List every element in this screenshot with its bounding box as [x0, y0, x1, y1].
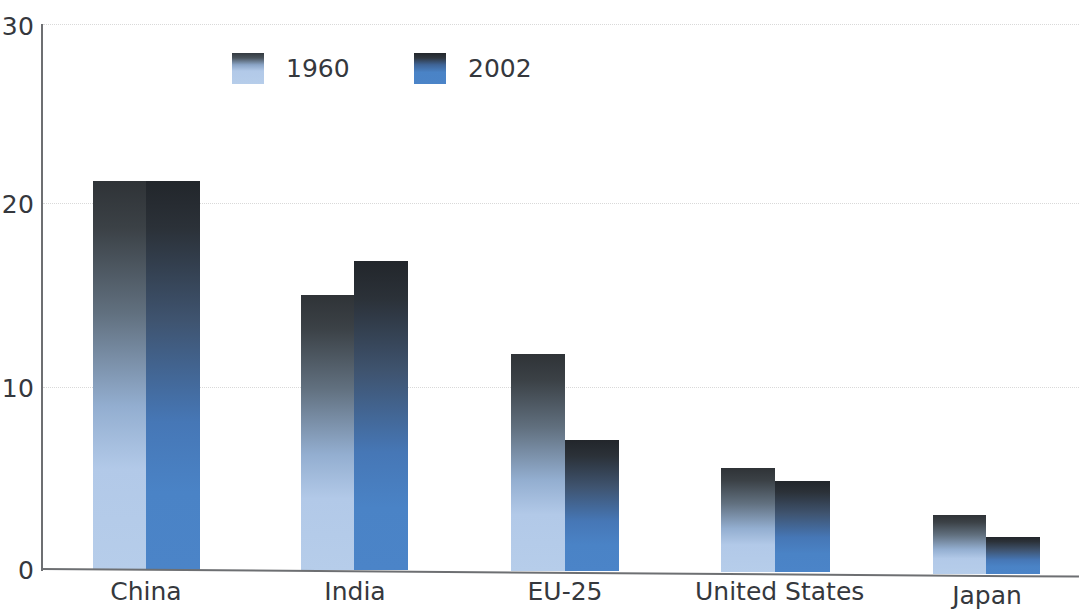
- bar-india-1960[interactable]: [301, 295, 354, 570]
- bar-japan-2002[interactable]: [986, 537, 1040, 574]
- bar-united-states-1960[interactable]: [721, 468, 775, 572]
- x-category-label-united-states: United States: [695, 578, 855, 606]
- legend-label-1960: 1960: [286, 56, 350, 81]
- bar-china-1960[interactable]: [93, 181, 146, 570]
- legend-entry-2002[interactable]: 2002: [414, 51, 532, 85]
- plot-area: [0, 0, 1081, 610]
- legend-swatch-2002-icon: [414, 53, 446, 84]
- x-category-label-japan: Japan: [907, 582, 1067, 610]
- bar-india-2002[interactable]: [354, 261, 408, 570]
- bar-japan-1960[interactable]: [933, 515, 986, 574]
- x-category-label-india: India: [275, 578, 435, 606]
- bar-chart: 30 20 10 0 China India EU-25 United Stat…: [0, 0, 1081, 610]
- legend-swatch-1960-icon: [232, 53, 264, 84]
- legend-entry-1960[interactable]: 1960: [232, 51, 350, 85]
- bar-eu25-2002[interactable]: [565, 440, 619, 571]
- legend-label-2002: 2002: [468, 56, 532, 81]
- bar-eu25-1960[interactable]: [511, 354, 565, 571]
- x-category-label-china: China: [66, 578, 226, 606]
- x-category-label-eu-25: EU-25: [485, 578, 645, 606]
- bar-united-states-2002[interactable]: [775, 481, 830, 572]
- bar-china-2002[interactable]: [146, 181, 200, 570]
